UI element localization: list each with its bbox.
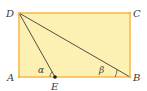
point-d-marker (18, 12, 21, 15)
point-b-marker (129, 76, 132, 79)
label-d: D (5, 8, 14, 19)
label-c: C (133, 8, 141, 19)
geometry-diagram: D C A B E α β (0, 0, 147, 91)
label-beta: β (98, 65, 104, 75)
point-e-marker (53, 75, 57, 79)
point-a-marker (18, 76, 21, 79)
label-alpha: α (38, 65, 44, 75)
point-c-marker (129, 12, 132, 15)
label-a: A (6, 72, 14, 83)
label-b: B (132, 72, 140, 83)
label-e: E (50, 81, 59, 91)
